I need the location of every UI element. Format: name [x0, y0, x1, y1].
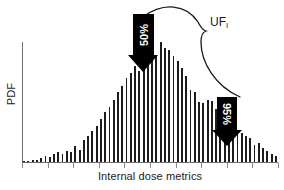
- x-axis-tick: [48, 163, 49, 168]
- x-axis-tick: [201, 163, 202, 168]
- histogram-bar: [207, 100, 209, 162]
- histogram-bar: [79, 150, 81, 162]
- histogram-bar: [266, 151, 268, 162]
- histogram-bar: [27, 161, 29, 162]
- x-axis-tick: [99, 163, 100, 168]
- histogram-bar: [66, 151, 68, 162]
- x-axis-tick: [227, 163, 228, 168]
- histogram-bar: [168, 50, 170, 162]
- histogram-bar: [138, 71, 140, 162]
- histogram-bar: [194, 92, 196, 162]
- histogram-bar: [23, 161, 25, 162]
- histogram-bar: [109, 107, 111, 162]
- histogram-bar: [181, 68, 183, 162]
- histogram-bar: [249, 138, 251, 162]
- upper-percentile-arrow-label: 95%: [221, 94, 233, 134]
- histogram-bar: [70, 152, 72, 162]
- x-axis-tick: [278, 163, 279, 168]
- histogram-bar: [121, 86, 123, 162]
- histogram-bar: [100, 119, 102, 162]
- x-axis-tick: [124, 163, 125, 168]
- histogram-bar: [177, 61, 179, 162]
- histogram-bar: [147, 64, 149, 162]
- histogram-bar: [74, 146, 76, 162]
- histogram-bar: [117, 92, 119, 162]
- histogram-bar: [40, 158, 42, 162]
- histogram-bar: [190, 90, 192, 162]
- histogram-bar: [36, 160, 38, 162]
- histogram-bar: [45, 156, 47, 162]
- histogram-bar: [126, 78, 128, 162]
- histogram-bar: [254, 145, 256, 162]
- histogram-bar: [83, 140, 85, 162]
- x-axis-tick: [252, 163, 253, 168]
- histogram-bar: [262, 148, 264, 162]
- histogram-bar: [130, 73, 132, 162]
- histogram-bar: [104, 112, 106, 162]
- histogram-bar: [32, 160, 34, 162]
- histogram-bar: [57, 152, 59, 162]
- x-axis-tick: [22, 163, 23, 168]
- histogram-bar: [245, 136, 247, 162]
- y-axis-label: PDF: [5, 69, 17, 119]
- histogram-bar: [53, 154, 55, 162]
- histogram-bar: [113, 100, 115, 162]
- figure-canvas: PDF Internal dose metrics UFI 50% 95%: [0, 0, 284, 190]
- histogram-bar: [164, 48, 166, 162]
- histogram-bar: [155, 56, 157, 162]
- histogram-bar: [258, 143, 260, 162]
- uf-label: UFI: [210, 15, 228, 29]
- histogram-bar: [49, 157, 51, 162]
- histogram-bar: [87, 136, 89, 162]
- histogram-bar: [62, 154, 64, 162]
- histogram-bar: [275, 156, 277, 162]
- x-axis-label: Internal dose metrics: [22, 170, 278, 182]
- median-arrow-label: 50%: [138, 15, 150, 55]
- histogram-bar: [134, 66, 136, 162]
- histogram-bar: [202, 103, 204, 162]
- histogram-bar: [185, 76, 187, 162]
- x-axis-tick: [150, 163, 151, 168]
- uf-label-main: UF: [210, 15, 226, 29]
- x-axis-tick: [73, 163, 74, 168]
- x-axis-tick: [176, 163, 177, 168]
- histogram-bar: [160, 42, 162, 162]
- median-arrow-head: [128, 55, 158, 72]
- histogram-bar: [198, 102, 200, 162]
- histogram-bar: [96, 126, 98, 162]
- histogram-bar: [271, 154, 273, 162]
- histogram-bar: [91, 131, 93, 162]
- histogram-bar: [143, 59, 145, 162]
- uf-label-subscript: I: [226, 21, 228, 30]
- histogram-bar: [173, 56, 175, 162]
